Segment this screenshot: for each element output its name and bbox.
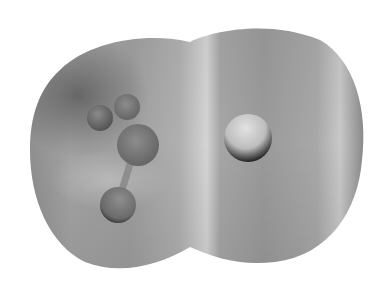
molecule-surface-svg xyxy=(0,0,388,286)
halogen-right-atom xyxy=(224,114,272,162)
hydrogen-upper-atom xyxy=(114,94,140,120)
central-carbon-atom xyxy=(117,124,159,166)
hydrogen-upper-left-atom xyxy=(87,105,113,131)
hydrogen-lower-atom xyxy=(100,187,136,223)
molecule-figure xyxy=(0,0,388,286)
